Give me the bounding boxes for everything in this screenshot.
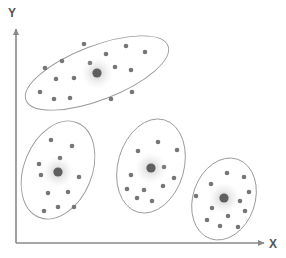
data-point (226, 214, 231, 219)
data-point (130, 90, 135, 95)
cluster-centroid (146, 163, 155, 172)
data-point (136, 149, 141, 154)
data-point (125, 187, 130, 192)
data-point (38, 90, 43, 95)
data-point (109, 97, 114, 102)
data-point (43, 66, 48, 71)
data-point (37, 162, 42, 167)
data-point (236, 225, 241, 230)
data-point (77, 175, 82, 180)
data-point (209, 182, 214, 187)
data-point (225, 171, 230, 176)
data-point (104, 52, 109, 57)
data-point (52, 97, 57, 102)
data-point (72, 76, 77, 81)
data-point (150, 199, 155, 204)
data-point (143, 50, 148, 55)
data-point (172, 176, 177, 181)
cluster-diagram-canvas: Y X (0, 0, 286, 258)
cluster-plot-svg: Y X (0, 0, 286, 258)
data-point (82, 42, 87, 47)
data-point (175, 148, 180, 153)
data-point (194, 194, 199, 199)
data-point (205, 218, 210, 223)
data-point (247, 190, 252, 195)
data-point (156, 140, 161, 145)
data-point (242, 175, 247, 180)
data-point (54, 77, 59, 82)
x-axis-label: X (269, 237, 277, 251)
data-point (124, 44, 129, 49)
data-point (70, 144, 75, 149)
data-point (218, 224, 223, 229)
data-point (129, 173, 134, 178)
y-axis-label: Y (8, 6, 16, 20)
data-point (135, 196, 140, 201)
data-point (161, 184, 166, 189)
data-point (68, 96, 73, 101)
data-point (60, 59, 65, 64)
data-point (142, 188, 147, 193)
cluster-centroid (92, 68, 101, 77)
data-point (49, 138, 54, 143)
data-point (46, 191, 51, 196)
cluster-centroid (53, 167, 62, 176)
data-point (243, 209, 248, 214)
data-point (113, 65, 118, 70)
data-point (129, 68, 134, 73)
data-point (42, 209, 47, 214)
data-point (56, 205, 61, 210)
data-point (72, 205, 77, 210)
cluster-centroid (219, 193, 228, 202)
data-point (66, 190, 71, 195)
